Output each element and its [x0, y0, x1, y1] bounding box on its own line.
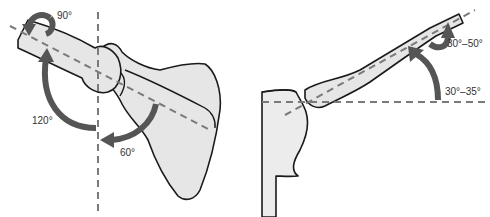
- arrowhead-icon: [100, 132, 114, 148]
- shoulder-diagram: [0, 0, 490, 217]
- label-60: 60°: [120, 147, 135, 158]
- left-panel: [10, 12, 220, 212]
- label-90: 90°: [57, 10, 72, 21]
- angle-arrow: [416, 54, 438, 100]
- glenoid-scapula: [262, 90, 307, 217]
- label-30-50: 30°–50°: [447, 38, 483, 49]
- label-30-35: 30°–35°: [445, 86, 481, 97]
- label-120: 120°: [32, 115, 53, 126]
